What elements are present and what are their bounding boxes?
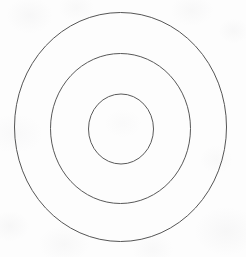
outer-ring <box>15 13 227 242</box>
inner-ring <box>89 94 154 164</box>
middle-ring <box>51 54 191 204</box>
concentric-circles-figure <box>0 0 246 257</box>
concentric-circles-drawing <box>0 0 246 257</box>
